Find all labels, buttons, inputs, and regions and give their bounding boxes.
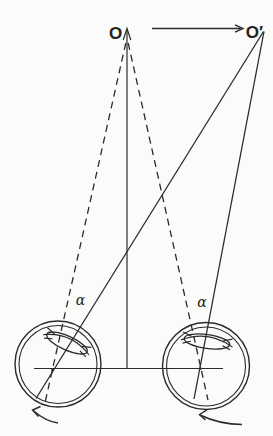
fixation-point-O-prime-label: O′ (246, 23, 263, 42)
fixation-point-O-label: O (109, 24, 122, 43)
left-nodal-point (51, 369, 54, 372)
left-angle-alpha-label: α (76, 292, 86, 308)
right-nodal-point (199, 367, 202, 370)
diagram-canvas: O O′ α α (0, 0, 273, 436)
right-angle-alpha-label: α (197, 294, 207, 310)
eye-movement-diagram: O O′ α α (0, 0, 273, 436)
paper-background (0, 0, 273, 436)
